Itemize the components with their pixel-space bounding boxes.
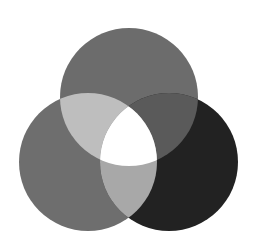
venn-diagram-svg <box>0 0 256 246</box>
venn-diagram <box>0 0 256 246</box>
